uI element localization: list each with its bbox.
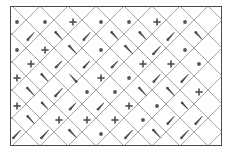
motif-dash-icon bbox=[26, 87, 35, 97]
motif-dash-icon bbox=[138, 31, 146, 40]
motif-dash-icon bbox=[124, 45, 133, 55]
motif-dot-icon bbox=[155, 104, 159, 108]
motif-dash-icon bbox=[55, 60, 63, 68]
motif-plus-icon bbox=[13, 74, 20, 81]
motif-dash-icon bbox=[180, 74, 188, 83]
motif-dash-head bbox=[12, 137, 15, 140]
motif-dot-icon bbox=[99, 48, 103, 52]
motif-dash-icon bbox=[68, 45, 77, 55]
motif-dash-head bbox=[152, 53, 155, 56]
motif-dash-icon bbox=[40, 73, 48, 82]
motif-dash-icon bbox=[152, 74, 160, 83]
motif-dash-head bbox=[97, 108, 100, 111]
motif-plus-icon bbox=[125, 102, 132, 109]
motif-dash-head bbox=[110, 31, 113, 34]
lattice-line-upright bbox=[11, 7, 67, 145]
motif-dash-head bbox=[152, 129, 155, 132]
motif-dash-head bbox=[26, 115, 29, 118]
motif-dash-head bbox=[180, 137, 183, 140]
motif-plus-icon bbox=[69, 18, 76, 25]
motif-dash-head bbox=[124, 137, 127, 140]
motif-plus-icon bbox=[139, 60, 146, 67]
motif-dot-icon bbox=[15, 20, 19, 24]
motif-dash-head bbox=[194, 122, 197, 125]
motif-plus-icon bbox=[111, 116, 118, 123]
motif-dot-icon bbox=[127, 20, 131, 24]
motif-dash-head bbox=[138, 87, 141, 90]
motif-dash-head bbox=[166, 38, 169, 41]
motif-dash-icon bbox=[97, 102, 105, 110]
motif-dash-head bbox=[68, 129, 71, 132]
motif-dash-icon bbox=[41, 101, 49, 109]
motif-dash-head bbox=[124, 45, 127, 48]
motif-dash-icon bbox=[194, 116, 202, 125]
motif-dot-icon bbox=[141, 118, 145, 122]
motif-dash-icon bbox=[194, 31, 202, 40]
pattern-svg-container bbox=[11, 7, 221, 145]
motif-dash-head bbox=[152, 80, 155, 83]
motif-dash-head bbox=[40, 73, 43, 76]
motif-plus-icon bbox=[167, 60, 174, 67]
motif-dash-head bbox=[82, 38, 85, 41]
motif-dot-icon bbox=[43, 20, 47, 24]
figure-canvas bbox=[0, 0, 234, 157]
motif-dot-icon bbox=[99, 20, 103, 24]
motif-dash-head bbox=[166, 87, 169, 90]
motif-dash-icon bbox=[54, 31, 62, 40]
lattice-line-upright bbox=[11, 7, 39, 145]
motif-dash-head bbox=[180, 80, 183, 83]
lattice-line-downright bbox=[209, 7, 221, 145]
motif-dash-icon bbox=[26, 115, 34, 124]
motif-dash-icon bbox=[138, 87, 147, 97]
motif-plus-icon bbox=[195, 88, 202, 95]
lattice-line-downright bbox=[11, 7, 123, 145]
motif-dot-icon bbox=[183, 48, 187, 52]
motif-dash-head bbox=[111, 66, 114, 69]
motif-dash-icon bbox=[166, 87, 175, 97]
lattice-and-motifs bbox=[11, 7, 221, 145]
motif-dash-head bbox=[40, 137, 43, 140]
motif-dash-icon bbox=[111, 60, 119, 68]
motif-plus-icon bbox=[41, 46, 48, 53]
lattice-line-upright bbox=[11, 7, 123, 145]
lattice-line-upright bbox=[209, 7, 221, 145]
motif-dot-icon bbox=[15, 48, 19, 52]
motif-dash-head bbox=[194, 31, 197, 34]
motif-dash-head bbox=[26, 38, 29, 41]
motif-dash-icon bbox=[181, 101, 189, 109]
motif-dash-icon bbox=[69, 102, 77, 110]
lattice-line-downright bbox=[11, 7, 67, 145]
motif-dash-icon bbox=[26, 32, 34, 41]
motif-dash-icon bbox=[83, 60, 91, 68]
motif-dash-head bbox=[166, 122, 169, 125]
motif-dash-head bbox=[41, 101, 44, 104]
motif-plus-icon bbox=[55, 116, 62, 123]
motif-dash-head bbox=[54, 31, 57, 34]
motif-dash-head bbox=[68, 45, 71, 48]
motif-dash-head bbox=[138, 31, 141, 34]
motif-dash-head bbox=[55, 66, 58, 69]
motif-plus-icon bbox=[13, 102, 20, 109]
motif-dash-icon bbox=[166, 116, 174, 125]
pattern-frame bbox=[10, 6, 222, 146]
motif-dot-icon bbox=[183, 20, 187, 24]
motif-plus-icon bbox=[97, 74, 104, 81]
motif-dash-head bbox=[75, 80, 78, 83]
lattice-line-upright bbox=[125, 7, 221, 145]
motif-dash-icon bbox=[68, 129, 77, 139]
motif-dash-icon bbox=[69, 74, 77, 83]
motif-dash-icon bbox=[152, 129, 161, 139]
motif-dash-head bbox=[69, 108, 72, 111]
motif-dash-icon bbox=[166, 32, 174, 41]
motif-dot-icon bbox=[85, 90, 89, 94]
motif-dash-head bbox=[181, 101, 184, 104]
motif-dot-icon bbox=[113, 90, 117, 94]
lattice-line-downright bbox=[11, 7, 39, 145]
motif-dash-head bbox=[54, 95, 57, 98]
lattice-line-downright bbox=[125, 7, 221, 145]
motif-dot-icon bbox=[99, 132, 103, 136]
motif-dash-head bbox=[83, 66, 86, 69]
motif-dash-icon bbox=[82, 32, 90, 41]
motif-plus-icon bbox=[27, 60, 34, 67]
motif-dash-head bbox=[26, 87, 29, 90]
